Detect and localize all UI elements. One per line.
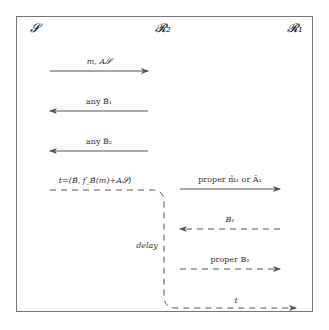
delay-path	[50, 190, 296, 308]
label-any-b1: any B̃₁	[86, 97, 112, 106]
label-b1: B₁	[225, 215, 234, 224]
label-delay: delay	[136, 241, 158, 250]
party-r1-label: 𝓡₁	[287, 21, 303, 35]
label-proper-b2: proper B₂	[210, 255, 249, 264]
label-m-as: m, A𝓢	[87, 57, 111, 67]
label-t-tuple: t=(B̃, f_B̃(m)+A𝓢)	[59, 176, 131, 186]
label-t: t	[234, 296, 237, 305]
party-r2-label: 𝓡₂	[155, 21, 171, 35]
label-proper-m1-a1: proper m̃₁ or Ã₁	[198, 175, 262, 184]
diagram-frame	[17, 17, 313, 312]
label-any-b2: any B̃₂	[86, 137, 112, 146]
party-s-label: 𝓢	[30, 21, 39, 35]
protocol-diagram	[0, 0, 329, 330]
